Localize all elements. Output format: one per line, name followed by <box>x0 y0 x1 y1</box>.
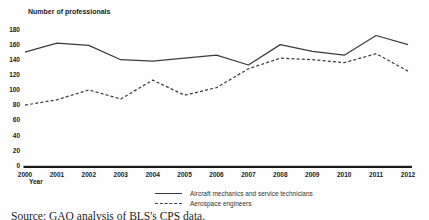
x-tick-label: 2004 <box>145 171 160 178</box>
x-tick-label: 2000 <box>18 171 33 178</box>
legend-label-mechanics: Aircraft mechanics and service technicia… <box>190 190 313 197</box>
x-axis-line <box>24 166 413 168</box>
y-tick-label: 180 <box>9 26 20 33</box>
x-tick-label: 2012 <box>401 171 416 178</box>
y-tick-label: 60 <box>13 116 21 123</box>
line-chart: 0204060801001201401601802000200120022003… <box>0 0 429 220</box>
legend-item-mechanics: Aircraft mechanics and service technicia… <box>155 190 313 197</box>
x-tick-label: 2005 <box>177 171 192 178</box>
x-tick-label: 2008 <box>273 171 288 178</box>
y-tick-label: 40 <box>13 132 21 139</box>
legend: Aircraft mechanics and service technicia… <box>155 190 313 207</box>
legend-label-engineers: Aerospace engineers <box>190 200 251 207</box>
x-tick-label: 2001 <box>50 171 65 178</box>
x-tick-label: 2010 <box>337 171 352 178</box>
chart-container: Number of professionals 0204060801001201… <box>0 0 429 220</box>
x-tick-label: 2011 <box>369 171 383 178</box>
solid-line-swatch-icon <box>155 193 182 194</box>
y-tick-label: 160 <box>9 41 20 48</box>
y-tick-label: 0 <box>16 162 20 169</box>
dashed-line-swatch-icon <box>155 203 182 204</box>
y-tick-label: 80 <box>13 101 21 108</box>
legend-item-engineers: Aerospace engineers <box>155 200 313 207</box>
x-tick-label: 2002 <box>82 171 97 178</box>
y-tick-label: 20 <box>13 147 21 154</box>
x-axis-label: Year <box>29 178 43 185</box>
y-tick-label: 100 <box>9 86 20 93</box>
x-tick-label: 2003 <box>114 171 129 178</box>
series-line-dashed <box>25 54 408 105</box>
x-tick-label: 2009 <box>305 171 320 178</box>
x-tick-label: 2006 <box>209 171 224 178</box>
y-tick-label: 140 <box>9 56 20 63</box>
y-tick-label: 120 <box>9 71 20 78</box>
x-tick-label: 2007 <box>241 171 256 178</box>
source-note: Source: GAO analysis of BLS's CPS data. <box>11 210 205 220</box>
